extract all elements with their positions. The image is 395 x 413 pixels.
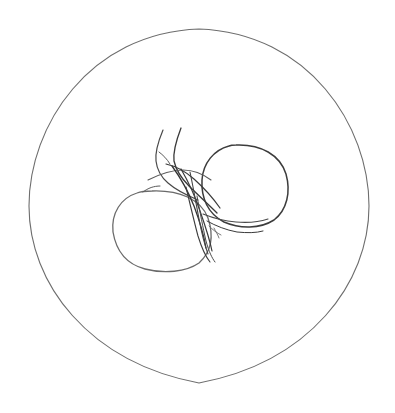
background-rect bbox=[0, 0, 395, 413]
sketch-illustration bbox=[0, 0, 395, 413]
sketch-canvas bbox=[0, 0, 395, 413]
